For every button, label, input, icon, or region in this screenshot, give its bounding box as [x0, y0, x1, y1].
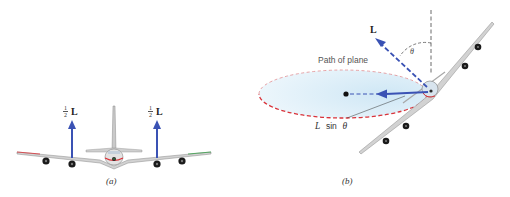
tail-fin: [112, 106, 116, 152]
theta-arc: [400, 42, 431, 56]
half-lift-arrow-left: [68, 120, 76, 158]
circle-center: [343, 91, 348, 96]
airplane-front-view-graphic: [0, 0, 230, 197]
path-of-plane-label: Path of plane: [318, 55, 368, 65]
fraction-one-half: 1 2: [148, 105, 153, 118]
lift-label: L: [370, 24, 377, 35]
theta-angle-label: θ: [410, 47, 414, 56]
l-sin-theta-label: L sin θ: [315, 120, 347, 131]
caption-a: (a): [106, 176, 117, 186]
caption-b: (b): [342, 176, 353, 186]
panel-a-front-view: 1 2 L 1 2 L (a): [0, 0, 230, 197]
half-lift-label-left: 1 2 L: [63, 101, 78, 119]
fraction-one-half: 1 2: [63, 105, 68, 118]
panel-b-banked-turn: L θ Path of plane L sin θ (b): [230, 0, 510, 197]
half-lift-arrow-right: [153, 120, 161, 158]
half-lift-label-right: 1 2 L: [148, 101, 163, 119]
